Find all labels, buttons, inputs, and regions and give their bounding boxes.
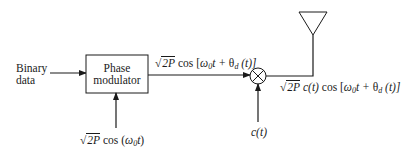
diagram-lines [0, 0, 409, 154]
carrier-label: √2P cos (ω0t) [80, 134, 144, 150]
antenna-feed-line [266, 35, 313, 76]
code-label: c(t) [251, 126, 267, 138]
modulated-signal-label: √2P cos [ω0t + θd (t)] [155, 57, 257, 73]
binary-data-label: Binary data [16, 62, 47, 86]
antenna-icon [299, 12, 327, 35]
phase-modulator-label: Phase modulator [86, 55, 148, 93]
spread-signal-label: √2P c(t) cos [ω0t + θd (t)] [280, 81, 400, 97]
bpsk-spread-spectrum-transmitter-diagram: Binary data Phase modulator √2P cos [ω0t… [0, 0, 409, 154]
